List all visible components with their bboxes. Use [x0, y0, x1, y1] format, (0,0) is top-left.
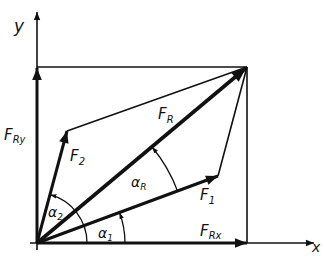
parallelogram — [67, 67, 247, 176]
F1-label: F1 — [200, 186, 215, 206]
x-axis-label: x — [311, 239, 321, 255]
F2-vector — [37, 131, 67, 243]
alphaR-arc — [152, 147, 178, 191]
alpha1-label: α1 — [98, 225, 113, 243]
FRx-label: FRx — [200, 222, 222, 241]
force-diagram: y x FR F1 F2 FRx FRy α1 α2 αR — [0, 0, 323, 272]
parallelogram-right-edge — [218, 67, 247, 176]
parallelogram-top-edge — [67, 67, 247, 131]
alpha1-arc — [120, 213, 126, 244]
FR-vector — [37, 68, 246, 243]
F2-label: F2 — [70, 147, 85, 167]
FRy-label: FRy — [4, 126, 27, 145]
F1-vector — [37, 176, 218, 243]
alphaR-label: αR — [131, 174, 147, 192]
alpha2-label: α2 — [48, 204, 63, 222]
FR-label: FR — [158, 105, 174, 125]
y-axis-label: y — [13, 16, 25, 36]
